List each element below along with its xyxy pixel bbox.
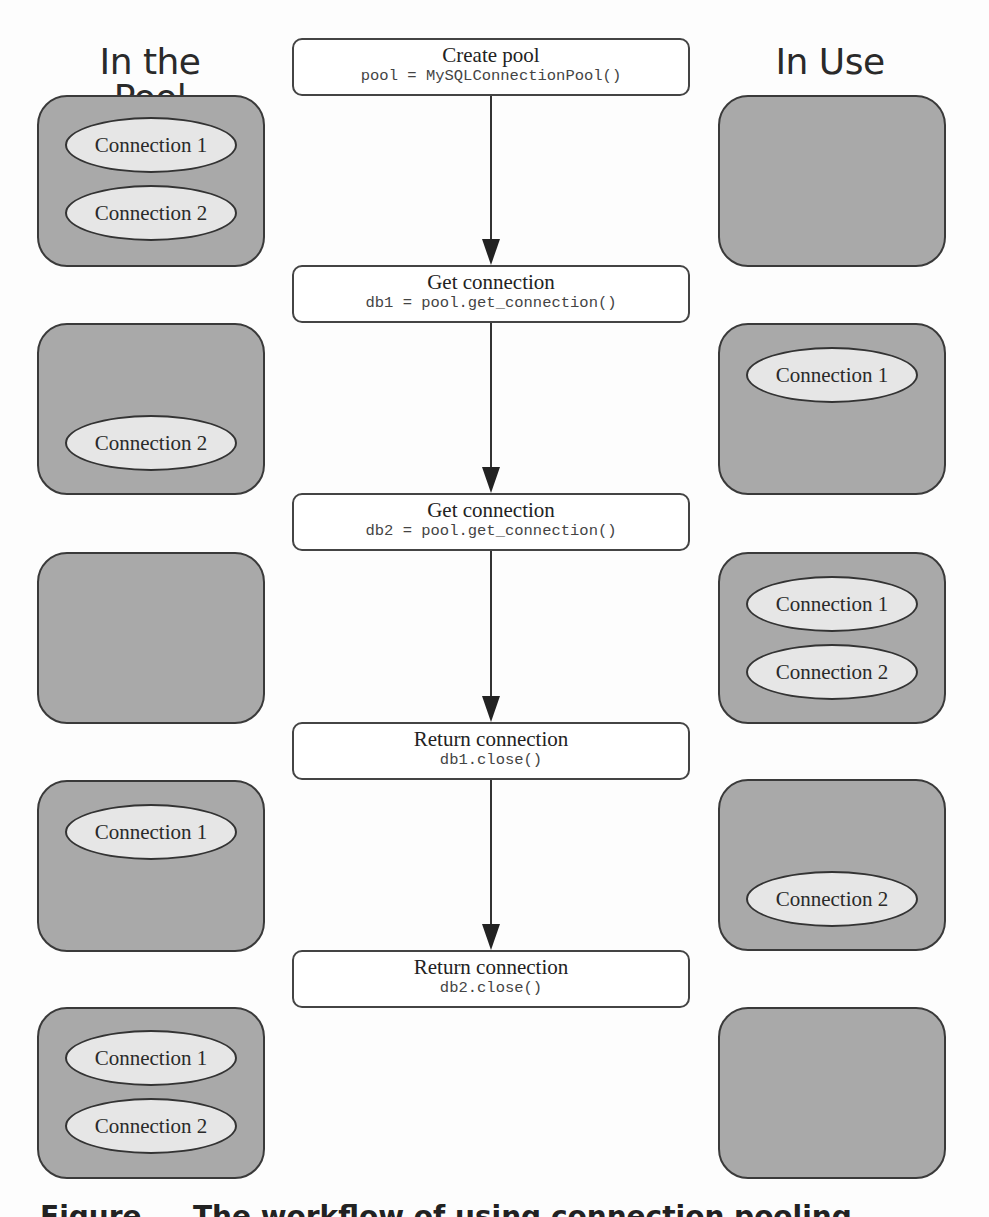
in-use-state-5 [718, 1007, 946, 1179]
step-code: db2 = pool.get_connection() [294, 521, 688, 541]
in-use-state-1 [718, 95, 946, 267]
in-use-state-4: Connection 2 [718, 779, 946, 951]
pool-state-2: Connection 2 [37, 323, 265, 495]
connection-2: Connection 2 [65, 415, 237, 471]
step-code: pool = MySQLConnectionPool() [294, 66, 688, 86]
pool-state-5: Connection 1 Connection 2 [37, 1007, 265, 1179]
step-return-connection-2: Return connection db2.close() [292, 950, 690, 1008]
arrow-line [490, 323, 492, 469]
step-title: Create pool [294, 44, 688, 66]
arrow-down-icon [482, 467, 500, 493]
step-title: Get connection [294, 499, 688, 521]
connection-2: Connection 2 [65, 1098, 237, 1154]
in-use-state-2: Connection 1 [718, 323, 946, 495]
arrow-line [490, 551, 492, 698]
in-use-state-3: Connection 1 Connection 2 [718, 552, 946, 724]
step-title: Return connection [294, 956, 688, 978]
connection-2: Connection 2 [746, 644, 918, 700]
pool-state-3 [37, 552, 265, 724]
step-get-connection-2: Get connection db2 = pool.get_connection… [292, 493, 690, 551]
connection-2: Connection 2 [746, 871, 918, 927]
arrow-line [490, 778, 492, 926]
connection-1: Connection 1 [746, 347, 918, 403]
connection-1: Connection 1 [65, 804, 237, 860]
step-code: db1.close() [294, 750, 688, 770]
pool-state-1: Connection 1 Connection 2 [37, 95, 265, 267]
step-code: db2.close() [294, 978, 688, 998]
arrow-down-icon [482, 239, 500, 265]
in-use-column-title: In Use [740, 44, 920, 80]
step-return-connection-1: Return connection db1.close() [292, 722, 690, 780]
connection-1: Connection 1 [65, 1030, 237, 1086]
figure-caption: Figure ... The workflow of using connect… [40, 1200, 940, 1217]
step-code: db1 = pool.get_connection() [294, 293, 688, 313]
arrow-down-icon [482, 924, 500, 950]
connection-1: Connection 1 [746, 576, 918, 632]
arrow-down-icon [482, 696, 500, 722]
connection-1: Connection 1 [65, 117, 237, 173]
step-title: Get connection [294, 271, 688, 293]
step-get-connection-1: Get connection db1 = pool.get_connection… [292, 265, 690, 323]
pool-state-4: Connection 1 [37, 780, 265, 952]
connection-2: Connection 2 [65, 185, 237, 241]
arrow-line [490, 96, 492, 241]
step-title: Return connection [294, 728, 688, 750]
step-create-pool: Create pool pool = MySQLConnectionPool() [292, 38, 690, 96]
